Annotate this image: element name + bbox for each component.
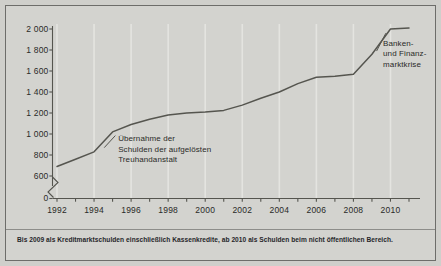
annotation-treuhandanstalt: Übernahme derSchulden der aufgelöstenTre… xyxy=(118,134,211,166)
y-tick-label-1600: 1 600 xyxy=(5,67,49,76)
y-tick-label-1400: 1 400 xyxy=(5,88,49,97)
footnote-text: Bis 2009 als Kreditmarktschulden einschl… xyxy=(17,236,427,243)
annotation-finanzkrise-line-2: marktkrise xyxy=(383,60,426,71)
y-tick-label-1000: 1 000 xyxy=(5,130,49,139)
y-tick-label-600: 600 xyxy=(5,172,49,181)
x-tick-label-2008: 2008 xyxy=(338,206,368,215)
annotation-leader-treuhandanstalt xyxy=(104,136,115,148)
y-tick-label-2000: 2 000 xyxy=(5,25,49,34)
x-tick-label-2010: 2010 xyxy=(375,206,405,215)
chart-figure: 06008001 0001 2001 4001 6001 8002 000199… xyxy=(0,0,441,266)
y-tick-label-0: 0 xyxy=(5,194,49,203)
annotation-finanzkrise-line-1: und Finanz- xyxy=(383,49,426,60)
y-tick-label-1800: 1 800 xyxy=(5,46,49,55)
annotation-treuhandanstalt-line-2: Treuhandanstalt xyxy=(118,155,211,166)
annotation-treuhandanstalt-line-1: Schulden der aufgelösten xyxy=(118,145,211,156)
x-tick-label-1998: 1998 xyxy=(153,206,183,215)
x-tick-label-1996: 1996 xyxy=(116,206,146,215)
axes xyxy=(53,26,421,199)
gridlines xyxy=(57,24,390,199)
x-tick-label-1992: 1992 xyxy=(42,206,72,215)
x-tick-label-1994: 1994 xyxy=(79,206,109,215)
plot-surface xyxy=(0,0,441,266)
annotation-treuhandanstalt-line-0: Übernahme der xyxy=(118,134,211,145)
x-tick-label-2004: 2004 xyxy=(264,206,294,215)
x-tick-label-2006: 2006 xyxy=(301,206,331,215)
annotation-finanzkrise-line-0: Banken- xyxy=(383,39,426,50)
y-tick-label-1200: 1 200 xyxy=(5,109,49,118)
data-line-schulden xyxy=(57,28,409,167)
x-tick-label-2000: 2000 xyxy=(190,206,220,215)
annotation-finanzkrise: Banken-und Finanz-marktkrise xyxy=(383,39,426,71)
y-tick-label-800: 800 xyxy=(5,151,49,160)
x-tick-label-2002: 2002 xyxy=(227,206,257,215)
